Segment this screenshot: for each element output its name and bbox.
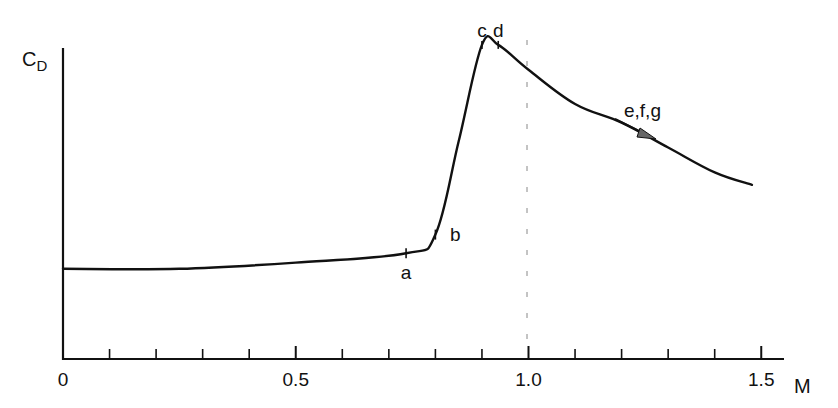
x-axis-ticks [110,346,762,359]
x-tick-label: 0.5 [283,369,309,390]
annotation-label-efg: e,f,g [624,100,661,121]
axes: 00.51.01.5 [58,48,784,390]
x-tick-label: 1.5 [748,369,774,390]
arrow-head-icon [637,128,656,139]
annotation-label-c: c [477,20,487,41]
efg-arrow [615,119,656,139]
annotation-label-a: a [401,262,412,283]
x-tick-label: 1.0 [515,369,541,390]
x-tick-label: 0 [58,369,69,390]
curve-annotations: abcde,f,g [401,20,661,283]
y-axis-label: CD [22,48,47,74]
annotation-label-d: d [493,20,504,41]
drag-curve [63,36,752,269]
x-axis-label: M [794,375,811,397]
x-axis-tick-labels: 00.51.01.5 [58,369,775,390]
drag-chart: 00.51.01.5 CD M abcde,f,g [0,0,838,408]
annotation-label-b: b [450,224,461,245]
